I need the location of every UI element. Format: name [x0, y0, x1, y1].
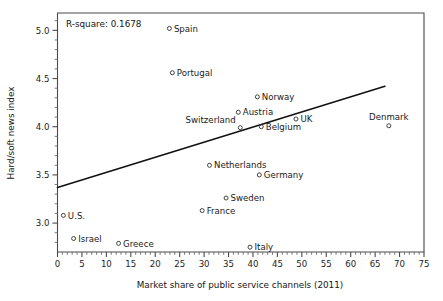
x-tick-label: 60: [345, 259, 356, 269]
y-axis-title: Hard/soft news index: [6, 87, 16, 180]
data-point-marker: [238, 126, 242, 130]
data-point-marker: [167, 26, 171, 30]
data-point-labels: SpainPortugalNorwayAustriaUKBelgiumSwitz…: [68, 24, 409, 253]
data-point-label: U.S.: [68, 211, 85, 221]
x-tick-label: 40: [247, 259, 258, 269]
axes: [58, 13, 425, 252]
data-point-label: Austria: [243, 107, 273, 117]
x-tick-label: 15: [125, 259, 136, 269]
x-tick-label: 0: [55, 259, 60, 269]
y-tick-label: 3.5: [36, 170, 50, 180]
data-point-label: UK: [300, 114, 312, 124]
tick-marks: [53, 21, 425, 257]
data-point-marker: [72, 237, 76, 241]
regression-line: [58, 86, 385, 187]
data-point-marker: [257, 173, 261, 177]
data-point-label: Netherlands: [214, 160, 267, 170]
data-point-marker: [294, 117, 298, 121]
data-point-marker: [224, 196, 228, 200]
data-point-label: Italy: [255, 242, 274, 252]
x-axis-title: Market share of public service channels …: [137, 280, 344, 290]
data-point-marker: [387, 124, 391, 128]
data-point-label: Sweden: [231, 193, 265, 203]
data-point-label: Denmark: [369, 112, 409, 122]
scatter-plot-figure: 0510152025303540455055606570753.03.54.04…: [0, 0, 443, 301]
data-point-marker: [207, 163, 211, 167]
plot-frame: [58, 13, 425, 252]
data-point-label: Israel: [78, 234, 102, 244]
data-point-label: France: [207, 206, 236, 216]
x-tick-label: 25: [174, 259, 185, 269]
r-square-annotation: R-square: 0.1678: [66, 19, 141, 29]
data-point-marker: [259, 125, 263, 129]
data-point-marker: [236, 110, 240, 114]
data-point-label: Portugal: [177, 68, 213, 78]
data-point-marker: [200, 209, 204, 213]
x-tick-label: 75: [419, 259, 430, 269]
data-point-marker: [117, 241, 121, 245]
data-point-label: Norway: [262, 92, 295, 102]
data-point-marker: [248, 245, 252, 249]
x-tick-label: 10: [101, 259, 112, 269]
data-point-label: Spain: [174, 24, 198, 34]
data-point-label: Belgium: [266, 122, 301, 132]
y-tick-label: 4.0: [36, 122, 50, 132]
data-point-label: Switzerland: [186, 115, 236, 125]
y-tick-label: 5.0: [36, 26, 50, 36]
x-tick-label: 65: [370, 259, 381, 269]
data-point-label: Germany: [264, 170, 304, 180]
x-tick-label: 5: [79, 259, 84, 269]
x-tick-label: 70: [394, 259, 405, 269]
x-tick-label: 45: [272, 259, 283, 269]
x-tick-label: 30: [199, 259, 210, 269]
data-points: [61, 26, 390, 249]
data-point-marker: [255, 95, 259, 99]
x-tick-label: 50: [296, 259, 307, 269]
x-tick-label: 20: [150, 259, 161, 269]
fit-line: [58, 86, 385, 187]
data-point-label: Greece: [123, 239, 154, 249]
x-tick-label: 55: [321, 259, 332, 269]
tick-labels: 0510152025303540455055606570753.03.54.04…: [36, 26, 430, 269]
y-tick-label: 3.0: [36, 218, 50, 228]
data-point-marker: [61, 213, 65, 217]
y-tick-label: 4.5: [36, 74, 50, 84]
plot-canvas: 0510152025303540455055606570753.03.54.04…: [0, 0, 443, 301]
data-point-marker: [170, 71, 174, 75]
x-tick-label: 35: [223, 259, 234, 269]
